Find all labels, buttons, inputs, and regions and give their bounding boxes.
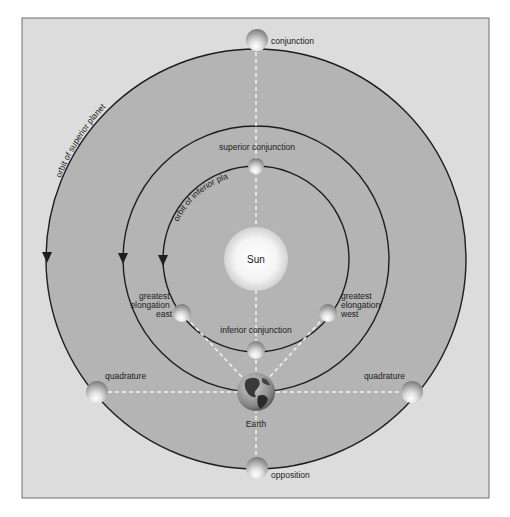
label-quadrature-right: quadrature: [364, 371, 405, 381]
earth-globe-icon: [237, 373, 275, 411]
planet-greatest-elongation-west: [319, 304, 337, 322]
label-opposition: opposition: [271, 470, 310, 480]
planet-quadrature-right: [401, 381, 423, 403]
planet-quadrature-left: [86, 381, 108, 403]
planet-superior-conjunction: [248, 158, 264, 174]
planet-conjunction: [246, 29, 268, 51]
label-earth: Earth: [246, 419, 267, 429]
planet-greatest-elongation-east: [173, 304, 191, 322]
label-superior-conjunction: superior conjunction: [219, 142, 295, 152]
label-conjunction: conjunction: [271, 36, 314, 46]
planetary-configurations-diagram: Sun conjunction superior conjunction gre…: [0, 0, 510, 517]
label-quadrature-left: quadrature: [105, 371, 146, 381]
planet-opposition: [246, 457, 268, 479]
planet-inferior-conjunction: [247, 341, 265, 359]
sun-label: Sun: [247, 254, 265, 265]
sun: Sun: [224, 227, 288, 291]
label-inferior-conjunction: inferior conjunction: [220, 325, 292, 335]
